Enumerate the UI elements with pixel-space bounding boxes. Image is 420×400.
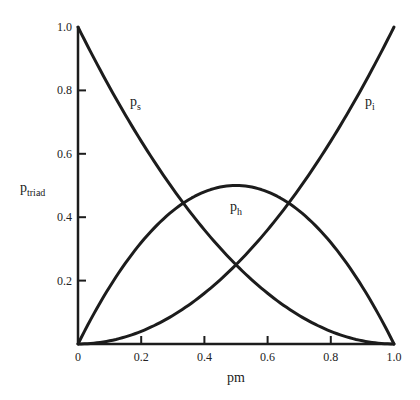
x-tick-label: 0.4 <box>197 350 212 364</box>
curve-label-ph: ph <box>230 199 242 217</box>
x-tick-label: 0.2 <box>134 350 149 364</box>
x-tick-label: 0.6 <box>260 350 275 364</box>
y-tick-label: 0.8 <box>57 83 72 97</box>
curve-label-ps: ps <box>130 94 141 112</box>
curves <box>78 27 394 344</box>
x-tick-label: 1.0 <box>387 350 402 364</box>
y-tick-label: 0.6 <box>57 147 72 161</box>
x-axis-title: pm <box>227 370 245 385</box>
y-tick-label: 0.4 <box>57 210 72 224</box>
curve-label-pi: pi <box>365 94 375 112</box>
x-tick-label: 0 <box>75 350 81 364</box>
x-tick-label: 0.8 <box>323 350 338 364</box>
y-axis-ticks: 0.20.40.60.81.0 <box>57 20 86 288</box>
triad-probability-chart: 00.20.40.60.81.0 0.20.40.60.81.0 ps ph p… <box>0 0 420 400</box>
y-tick-label: 0.2 <box>57 274 72 288</box>
y-tick-label: 1.0 <box>57 20 72 34</box>
x-axis-ticks: 00.20.40.60.81.0 <box>75 336 402 364</box>
y-axis-title: ptriad <box>20 180 45 198</box>
